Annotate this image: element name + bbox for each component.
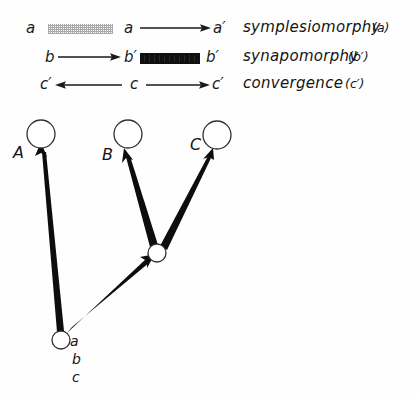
legend-row-synapomorphy: b b′ b′ synapomorphy (b′)	[0, 45, 418, 71]
legend-row-2-mid-state: c	[130, 76, 138, 92]
terminal-label-C: C	[190, 137, 201, 153]
terminal-label-A: A	[13, 145, 24, 161]
legend-row-convergence: c′ c c′ convergence (c′)	[0, 72, 418, 98]
legend-term-convergence: convergence	[243, 74, 343, 92]
legend-row-0-mid-state: a	[124, 20, 133, 36]
legend-row-symplesiomorphy: a a symplesiomorphy (a) a′	[0, 16, 418, 42]
root-state-c: c	[72, 370, 80, 384]
legend-term-symplesiomorphy: symplesiomorphy	[243, 18, 381, 36]
cladogram: A B C a b c	[0, 104, 418, 396]
legend-term-synapomorphy-paren: (b′)	[348, 49, 369, 64]
legend-term-convergence-paren: (c′)	[345, 76, 364, 91]
root-state-b: b	[72, 352, 81, 366]
plesiomorphic-state-bar	[48, 24, 113, 34]
legend: a a symplesiomorphy (a) a′ b b′ b′ synap…	[0, 0, 418, 104]
legend-row-2-end-state: c′	[212, 76, 224, 92]
legend-row-0-start-state: a	[26, 20, 35, 36]
apomorphic-state-bar	[140, 53, 200, 64]
legend-term-synapomorphy: synapomorphy	[243, 47, 359, 65]
legend-row-0-end-state: a′	[213, 20, 226, 36]
root-state-a: a	[70, 334, 79, 348]
legend-row-1-start-state: b	[45, 49, 55, 65]
legend-row-1-end-state: b′	[206, 49, 219, 65]
legend-term-symplesiomorphy-paren: (a)	[372, 20, 389, 35]
figure-canvas: a a symplesiomorphy (a) a′ b b′ b′ synap…	[0, 0, 418, 396]
legend-row-1-mid-state: b′	[124, 49, 137, 65]
legend-row-2-start-state: c′	[40, 76, 52, 92]
terminal-label-B: B	[102, 147, 113, 163]
